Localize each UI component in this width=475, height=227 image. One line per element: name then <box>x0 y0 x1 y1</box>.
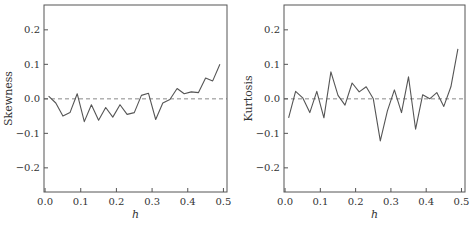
y-tick-label: 0.0 <box>24 93 40 104</box>
x-tick-label: 0.1 <box>73 196 89 207</box>
x-axis-label: h <box>371 208 378 221</box>
y-axis-label: Kurtosis <box>242 75 255 122</box>
y-tick-label: 0.0 <box>264 93 280 104</box>
x-tick-label: 0.0 <box>277 196 293 207</box>
x-tick-label: 0.5 <box>454 196 470 207</box>
x-tick-label: 0.1 <box>312 196 328 207</box>
y-axis-label: Skewness <box>2 71 15 126</box>
y-tick-label: −0.1 <box>16 128 40 139</box>
y-tick-label: 0.2 <box>264 24 280 35</box>
y-tick-label: −0.1 <box>256 128 280 139</box>
series-line-kurtosis <box>289 49 458 141</box>
y-tick-label: 0.1 <box>24 59 40 70</box>
x-tick-label: 0.3 <box>383 196 399 207</box>
figure: 0.00.10.20.30.40.5−0.2−0.10.00.10.2hSkew… <box>0 0 475 227</box>
series-line-skewness <box>49 64 220 121</box>
kurtosis-plot: 0.00.10.20.30.40.5−0.2−0.10.00.10.2hKurt… <box>242 5 469 221</box>
y-tick-label: −0.2 <box>16 162 40 173</box>
x-tick-label: 0.3 <box>144 196 160 207</box>
y-tick-label: 0.1 <box>264 59 280 70</box>
x-tick-label: 0.2 <box>108 196 124 207</box>
x-axis-label: h <box>132 208 139 221</box>
x-tick-label: 0.0 <box>37 196 53 207</box>
plot-frame <box>284 5 465 192</box>
x-tick-label: 0.5 <box>215 196 231 207</box>
skewness-plot: 0.00.10.20.30.40.5−0.2−0.10.00.10.2hSkew… <box>2 5 231 221</box>
x-tick-label: 0.4 <box>180 196 196 207</box>
x-tick-label: 0.2 <box>348 196 364 207</box>
y-tick-label: 0.2 <box>24 24 40 35</box>
y-tick-label: −0.2 <box>256 162 280 173</box>
x-tick-label: 0.4 <box>418 196 434 207</box>
